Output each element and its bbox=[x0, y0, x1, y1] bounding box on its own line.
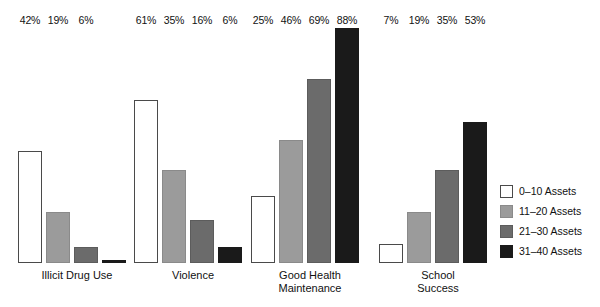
legend-item-label: 0–10 Assets bbox=[519, 185, 576, 198]
legend: 0–10 Assets 11–20 Assets 21–30 Assets 31… bbox=[500, 183, 596, 263]
bar-rect bbox=[74, 247, 98, 263]
bar-violence-11-20[interactable]: 35% bbox=[162, 28, 186, 263]
bar-group-illicit-drug-use: 42% 19% 6% 1% Illicit Drug Use bbox=[18, 28, 136, 263]
bar-value-label: 6% bbox=[79, 14, 94, 26]
bar-value-label: 88% bbox=[337, 14, 357, 26]
bar-group-bars: 7% 19% 35% 53% bbox=[379, 28, 487, 263]
bar-rect bbox=[307, 79, 331, 263]
bar-group-school-success: 7% 19% 35% 53% School Success bbox=[379, 28, 497, 263]
bar-good-health-maintenance-21-30[interactable]: 69% bbox=[307, 28, 331, 263]
bar-value-label: 42% bbox=[20, 14, 40, 26]
legend-swatch-icon bbox=[500, 185, 513, 198]
legend-item-21-30-assets[interactable]: 21–30 Assets bbox=[500, 223, 596, 239]
bar-violence-0-10[interactable]: 61% bbox=[134, 28, 158, 263]
bar-value-label: 69% bbox=[309, 14, 329, 26]
bar-illicit-drug-use-0-10[interactable]: 42% bbox=[18, 28, 42, 263]
bar-illicit-drug-use-21-30[interactable]: 6% bbox=[74, 28, 98, 263]
bar-rect bbox=[18, 151, 42, 263]
legend-swatch-icon bbox=[500, 245, 513, 258]
group-label-school-success: School Success bbox=[379, 269, 497, 295]
bar-value-label: 35% bbox=[164, 14, 184, 26]
bar-value-label: 16% bbox=[192, 14, 212, 26]
bar-rect bbox=[335, 28, 359, 263]
bar-rect bbox=[134, 100, 158, 263]
plot-area: 42% 19% 6% 1% Illicit Drug Use bbox=[0, 0, 490, 307]
bar-rect bbox=[162, 170, 186, 263]
bar-rect bbox=[279, 140, 303, 263]
bar-value-label: 53% bbox=[465, 14, 485, 26]
legend-item-11-20-assets[interactable]: 11–20 Assets bbox=[500, 203, 596, 219]
bar-group-violence: 61% 35% 16% 6% Violence bbox=[134, 28, 252, 263]
bar-value-label: 35% bbox=[437, 14, 457, 26]
bar-chart: 42% 19% 6% 1% Illicit Drug Use bbox=[0, 0, 600, 307]
bar-good-health-maintenance-0-10[interactable]: 25% bbox=[251, 28, 275, 263]
bar-good-health-maintenance-31-40[interactable]: 88% bbox=[335, 28, 359, 263]
bar-violence-31-40[interactable]: 6% bbox=[218, 28, 242, 263]
group-label-illicit-drug-use: Illicit Drug Use bbox=[18, 269, 136, 282]
bar-value-label: 7% bbox=[384, 14, 399, 26]
bar-rect bbox=[190, 220, 214, 263]
bar-value-label: 6% bbox=[223, 14, 238, 26]
bar-illicit-drug-use-11-20[interactable]: 19% bbox=[46, 28, 70, 263]
bar-school-success-0-10[interactable]: 7% bbox=[379, 28, 403, 263]
bar-group-good-health-maintenance: 25% 46% 69% 88% Good Health Maintenance bbox=[251, 28, 369, 263]
bar-group-bars: 42% 19% 6% 1% bbox=[18, 28, 126, 263]
bar-rect bbox=[379, 244, 403, 263]
legend-item-31-40-assets[interactable]: 31–40 Assets bbox=[500, 243, 596, 259]
bar-school-success-21-30[interactable]: 35% bbox=[435, 28, 459, 263]
bar-illicit-drug-use-31-40[interactable]: 1% bbox=[102, 28, 126, 263]
bar-rect bbox=[463, 122, 487, 263]
legend-item-label: 21–30 Assets bbox=[519, 225, 582, 238]
bar-rect bbox=[102, 260, 126, 263]
bar-value-label: 46% bbox=[281, 14, 301, 26]
bar-rect bbox=[218, 247, 242, 263]
legend-item-label: 11–20 Assets bbox=[519, 205, 581, 218]
bar-group-bars: 25% 46% 69% 88% bbox=[251, 28, 359, 263]
bar-school-success-11-20[interactable]: 19% bbox=[407, 28, 431, 263]
bar-violence-21-30[interactable]: 16% bbox=[190, 28, 214, 263]
bar-school-success-31-40[interactable]: 53% bbox=[463, 28, 487, 263]
bar-good-health-maintenance-11-20[interactable]: 46% bbox=[279, 28, 303, 263]
group-label-good-health-maintenance: Good Health Maintenance bbox=[251, 269, 369, 295]
bar-value-label: 19% bbox=[48, 14, 68, 26]
legend-item-label: 31–40 Assets bbox=[519, 245, 582, 258]
legend-swatch-icon bbox=[500, 205, 513, 218]
bar-value-label: 19% bbox=[409, 14, 429, 26]
legend-swatch-icon bbox=[500, 225, 513, 238]
bar-rect bbox=[46, 212, 70, 263]
legend-item-0-10-assets[interactable]: 0–10 Assets bbox=[500, 183, 596, 199]
bar-rect bbox=[251, 196, 275, 263]
bar-value-label: 61% bbox=[136, 14, 156, 26]
bar-rect bbox=[435, 170, 459, 263]
bar-group-bars: 61% 35% 16% 6% bbox=[134, 28, 242, 263]
group-label-violence: Violence bbox=[134, 269, 252, 282]
bar-rect bbox=[407, 212, 431, 263]
bar-value-label: 25% bbox=[253, 14, 273, 26]
